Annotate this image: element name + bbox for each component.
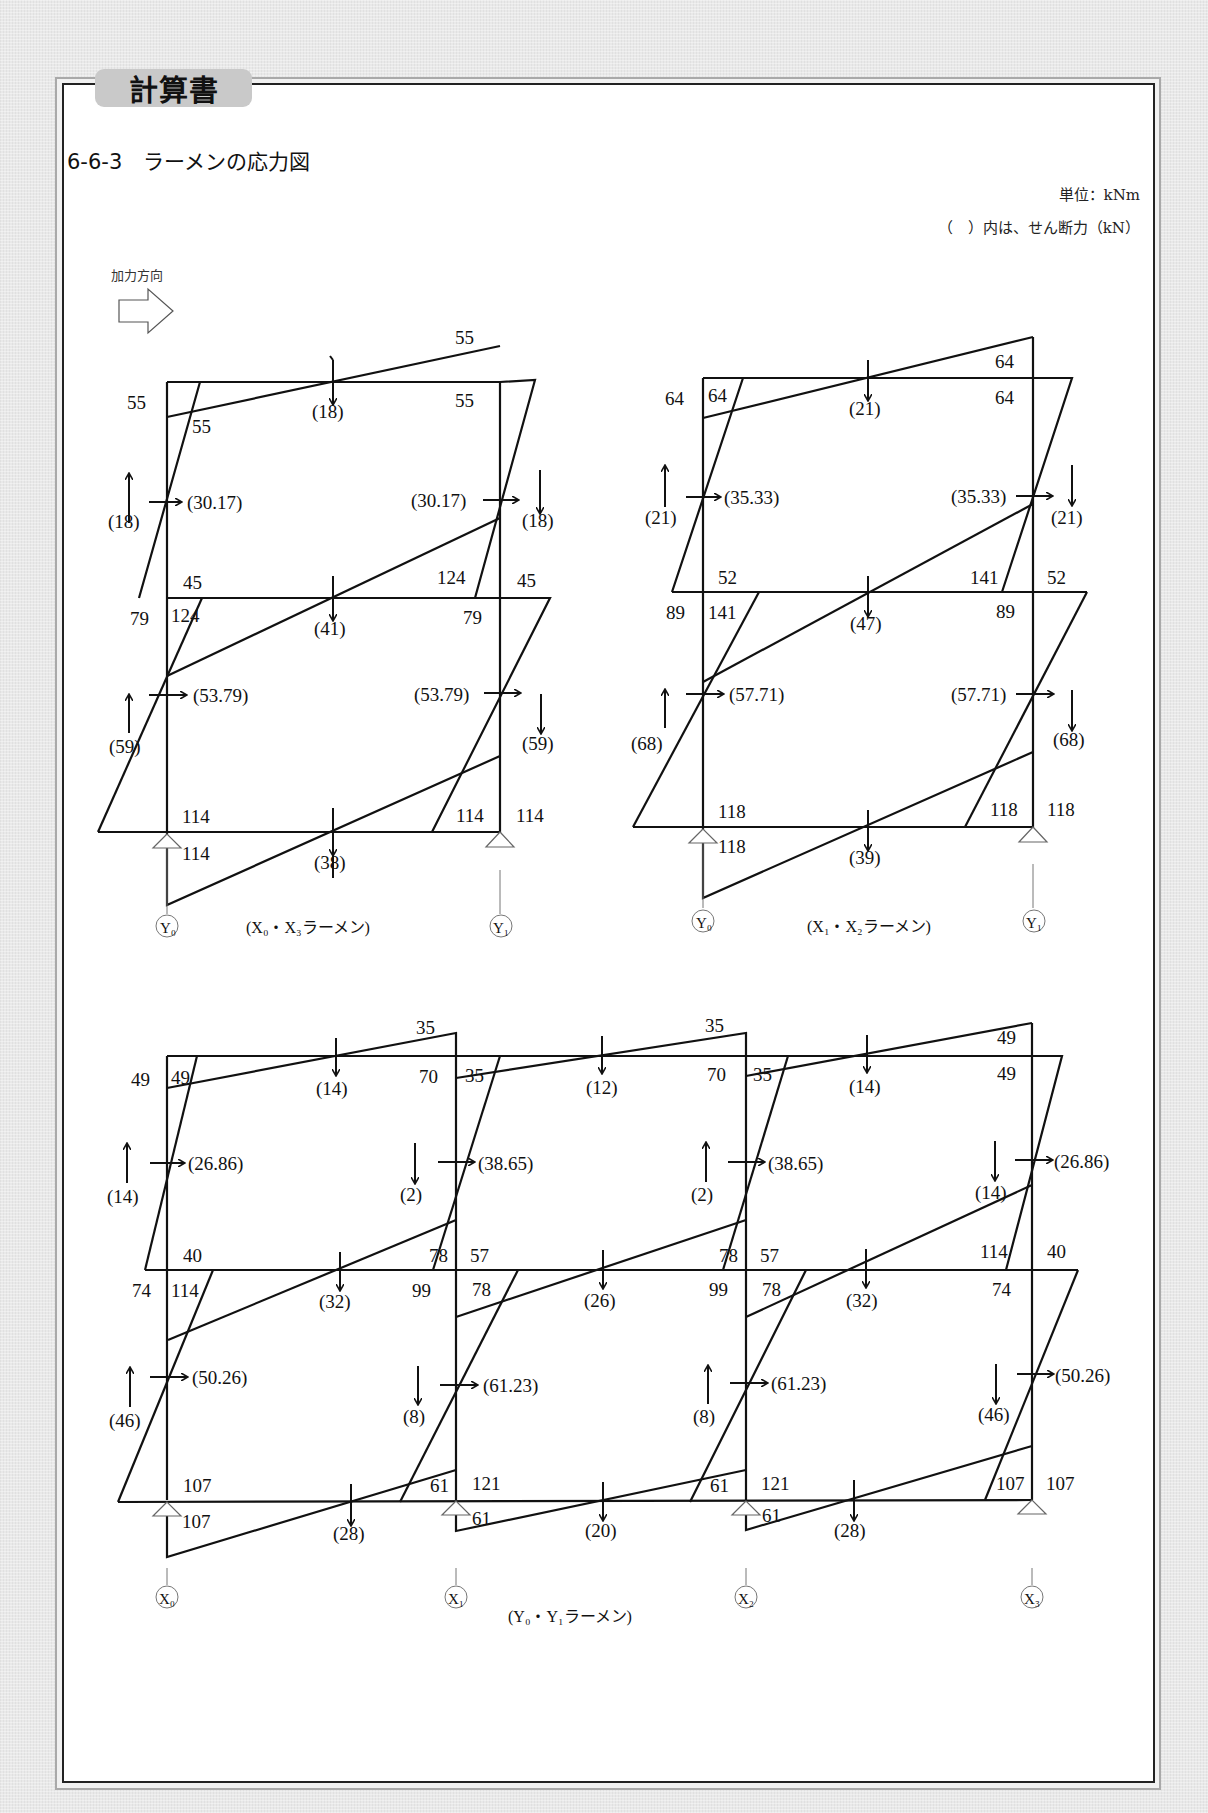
moment-label: 35	[416, 1017, 435, 1038]
shear-label: (14)	[316, 1078, 348, 1100]
shear-label: (26.86)	[1054, 1151, 1109, 1173]
moment-label: 78	[762, 1279, 781, 1300]
moment-label: 107	[996, 1473, 1025, 1494]
load-direction-label: 加力方向	[111, 265, 163, 284]
shear-label: (21)	[849, 398, 881, 420]
moment-label: 118	[718, 836, 746, 857]
frame-caption: (X₁・X₂ラーメン)	[807, 918, 931, 936]
moment-label: 121	[761, 1473, 790, 1494]
moment-label: 64	[708, 385, 728, 406]
moment-label: 35	[753, 1064, 772, 1085]
moment-label: 61	[430, 1475, 449, 1496]
shear-label: (18)	[312, 401, 344, 423]
moment-label: 55	[455, 390, 474, 411]
moment-label: 45	[183, 572, 202, 593]
moment-label: 70	[419, 1066, 438, 1087]
shear-label: (50.26)	[192, 1367, 247, 1389]
frame-diagram-x0-x3	[98, 346, 550, 937]
moment-label: 114	[516, 805, 544, 826]
axis-label-x2: X₂	[738, 1591, 754, 1607]
moment-label: 121	[472, 1473, 501, 1494]
moment-label: 52	[1047, 567, 1066, 588]
shear-label: (61.23)	[483, 1375, 538, 1397]
section-title: 6-6-3 ラーメンの応力図	[67, 145, 310, 175]
shear-label: (28)	[333, 1523, 365, 1545]
moment-label: 52	[718, 567, 737, 588]
moment-label: 114	[182, 843, 210, 864]
frame-diagram-x1-x2	[633, 337, 1087, 932]
shear-note: （ ）内は、せん断力（kN）	[938, 216, 1140, 237]
shear-label: (57.71)	[729, 684, 784, 706]
moment-label: 74	[992, 1279, 1012, 1300]
shear-label: (28)	[834, 1520, 866, 1542]
shear-label: (35.33)	[951, 486, 1006, 508]
moment-label: 118	[990, 799, 1018, 820]
moment-label: 124	[437, 567, 466, 588]
shear-label: (61.23)	[771, 1373, 826, 1395]
axial-label: (14)	[975, 1182, 1007, 1204]
moment-label: 99	[709, 1279, 728, 1300]
moment-label: 64	[995, 387, 1015, 408]
axial-label: (68)	[631, 733, 663, 755]
moment-label: 40	[183, 1245, 202, 1266]
axis-label-x3: X₃	[1024, 1591, 1040, 1607]
axial-label: (2)	[400, 1184, 422, 1206]
shear-label: (12)	[586, 1077, 618, 1099]
moment-label: 79	[130, 608, 149, 629]
axis-label-y0: Y₀	[160, 920, 176, 936]
moment-label: 57	[470, 1245, 489, 1266]
moment-label: 114	[171, 1280, 199, 1301]
moment-label: 118	[718, 801, 746, 822]
frame-caption: (X₀・X₃ラーメン)	[246, 919, 370, 937]
moment-label: 89	[666, 602, 685, 623]
moment-label: 55	[127, 392, 146, 413]
axial-label: (46)	[978, 1404, 1010, 1426]
unit-note: 単位：kNm	[1059, 183, 1140, 204]
shear-label: (41)	[314, 618, 346, 640]
axial-label: (59)	[522, 733, 554, 755]
moment-label: 49	[131, 1069, 150, 1090]
axial-label: (59)	[109, 736, 141, 758]
shear-label: (39)	[849, 847, 881, 869]
moment-label: 70	[707, 1064, 726, 1085]
shear-label: (14)	[849, 1076, 881, 1098]
moment-label: 118	[1047, 799, 1075, 820]
shear-label: (26)	[584, 1290, 616, 1312]
axial-label: (21)	[1051, 507, 1083, 529]
axial-label: (68)	[1053, 729, 1085, 751]
shear-label: (50.26)	[1055, 1365, 1110, 1387]
axial-label: (18)	[108, 511, 140, 533]
moment-label: 107	[183, 1475, 212, 1496]
axial-label: (8)	[693, 1406, 715, 1428]
moment-label: 64	[665, 388, 685, 409]
moment-label: 78	[472, 1279, 491, 1300]
moment-label: 74	[132, 1280, 152, 1301]
moment-label: 61	[710, 1475, 729, 1496]
axial-label: (2)	[691, 1184, 713, 1206]
moment-label: 35	[705, 1015, 724, 1036]
axis-label-x1: X₁	[448, 1591, 464, 1607]
moment-label: 78	[719, 1245, 738, 1266]
moment-label: 61	[472, 1508, 491, 1529]
shear-label: (47)	[850, 613, 882, 635]
shear-label: (38)	[314, 852, 346, 874]
moment-label: 35	[465, 1065, 484, 1086]
moment-label: 107	[1046, 1473, 1075, 1494]
shear-label: (53.79)	[414, 684, 469, 706]
axial-label: (8)	[403, 1406, 425, 1428]
moment-label: 79	[463, 607, 482, 628]
moment-label: 114	[980, 1241, 1008, 1262]
shear-label: (20)	[585, 1520, 617, 1542]
moment-label: 99	[412, 1280, 431, 1301]
axial-label: (18)	[522, 510, 554, 532]
moment-label: 55	[192, 416, 211, 437]
moment-label: 61	[762, 1505, 781, 1526]
shear-label: (30.17)	[411, 490, 466, 512]
moment-label: 141	[970, 567, 999, 588]
shear-label: (35.33)	[724, 487, 779, 509]
axial-label: (46)	[109, 1410, 141, 1432]
moment-label: 89	[996, 601, 1015, 622]
axis-label-y0: Y₀	[696, 915, 712, 931]
shear-label: (30.17)	[187, 492, 242, 514]
shear-label: (32)	[846, 1290, 878, 1312]
